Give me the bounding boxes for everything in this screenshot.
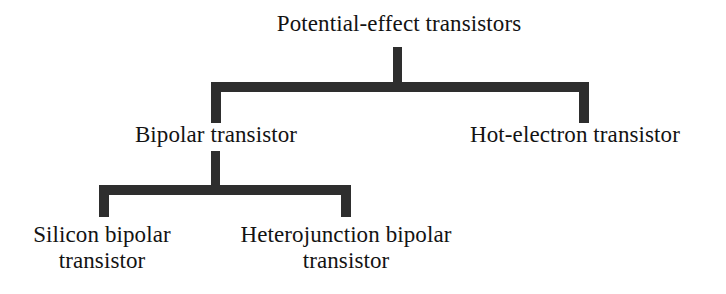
node-hot-electron-transistor: Hot-electron transistor bbox=[440, 122, 710, 148]
node-silicon-bipolar-line2: transistor bbox=[2, 248, 202, 274]
connector-level1-right-leg bbox=[579, 82, 589, 123]
connector-bipolar-stem bbox=[211, 151, 220, 187]
connector-level1-horizontal-bar bbox=[211, 82, 589, 92]
node-bipolar-transistor: Bipolar transistor bbox=[96, 122, 336, 148]
node-heterojunction-bipolar-line2: transistor bbox=[198, 248, 494, 274]
connector-level2-right-leg bbox=[341, 185, 351, 217]
node-root-potential-effect-transistors: Potential-effect transistors bbox=[0, 11, 726, 37]
node-silicon-bipolar-line1: Silicon bipolar bbox=[33, 222, 171, 247]
tree-diagram: Potential-effect transistors Bipolar tra… bbox=[0, 0, 726, 294]
node-root-label: Potential-effect transistors bbox=[277, 11, 521, 36]
connector-level1-left-leg bbox=[211, 82, 221, 123]
node-heterojunction-bipolar-transistor: Heterojunction bipolartransistor bbox=[198, 222, 494, 274]
node-heterojunction-bipolar-line1: Heterojunction bipolar bbox=[240, 222, 451, 247]
connector-level2-horizontal-bar bbox=[99, 185, 351, 195]
node-silicon-bipolar-transistor: Silicon bipolartransistor bbox=[2, 222, 202, 274]
connector-root-stem bbox=[393, 47, 402, 85]
connector-level2-left-leg bbox=[99, 185, 109, 217]
